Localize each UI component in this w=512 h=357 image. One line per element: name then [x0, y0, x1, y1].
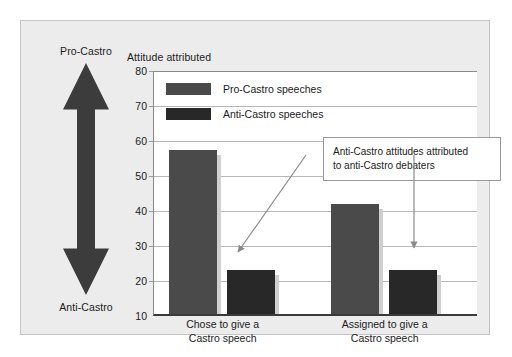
annotation-callout: Anti-Castro attitudes attributed to anti… [323, 137, 501, 181]
bar-shadow [217, 155, 221, 315]
bar-body [331, 204, 379, 314]
legend-item: Pro-Castro speeches [166, 79, 366, 98]
bar-shadow [437, 275, 441, 314]
bar-pro-castro [331, 204, 383, 314]
attitude-scale: Pro-Castro Anti-Castro [44, 45, 128, 313]
legend-swatch [166, 108, 211, 120]
y-axis-tick-label: 30 [127, 240, 147, 252]
bar-shadow [379, 209, 383, 314]
bar-body [389, 270, 437, 314]
scale-label-anti-castro: Anti-Castro [44, 301, 128, 313]
x-axis-category-label-line: Assigned to give a [320, 318, 450, 332]
y-axis-tick-label: 50 [127, 170, 147, 182]
bar-anti-castro [227, 270, 279, 314]
x-axis-category-label: Chose to give aCastro speech [158, 318, 288, 345]
y-axis-tick-label: 70 [127, 100, 147, 112]
figure-panel: Pro-Castro Anti-Castro Attitude attribut… [20, 20, 490, 335]
annotation-line-1: Anti-Castro attitudes attributed [333, 145, 491, 159]
legend-label: Pro-Castro speeches [223, 83, 322, 95]
legend-label: Anti-Castro speeches [223, 108, 323, 120]
x-axis-category-label-line: Chose to give a [158, 318, 288, 332]
chart-title: Attitude attributed [127, 51, 211, 63]
x-axis-category-label: Assigned to give aCastro speech [320, 318, 450, 345]
chart-legend: Pro-Castro speechesAnti-Castro speeches [166, 79, 366, 129]
x-axis-category-label-line: Castro speech [320, 332, 450, 346]
y-axis-tick-label: 40 [127, 205, 147, 217]
legend-swatch [166, 83, 211, 95]
annotation-line-2: to anti-Castro debaters [333, 159, 491, 173]
bar-pro-castro [169, 150, 221, 315]
legend-item: Anti-Castro speeches [166, 104, 366, 123]
x-axis-labels: Chose to give aCastro speechAssigned to … [153, 318, 477, 352]
y-axis: 1020304050607080 [127, 71, 147, 316]
bar-shadow [275, 275, 279, 314]
double-headed-vertical-arrow-icon [63, 63, 109, 295]
x-axis-category-label-line: Castro speech [158, 332, 288, 346]
bar-body [227, 270, 275, 314]
y-axis-tick-label: 10 [127, 310, 147, 322]
y-axis-tick-label: 60 [127, 135, 147, 147]
y-axis-tick-label: 80 [127, 65, 147, 77]
scale-label-pro-castro: Pro-Castro [44, 45, 128, 57]
bar-body [169, 150, 217, 315]
bar-anti-castro [389, 270, 441, 314]
y-axis-tick-label: 20 [127, 275, 147, 287]
